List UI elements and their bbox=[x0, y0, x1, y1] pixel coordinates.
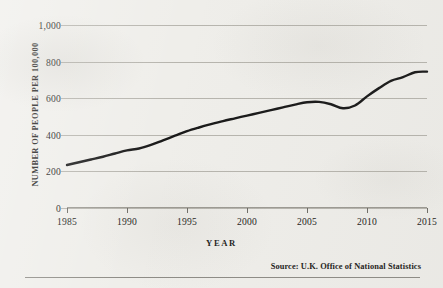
x-axis-title: YEAR bbox=[0, 238, 443, 248]
x-tick-label: 1985 bbox=[57, 216, 77, 227]
y-tick-label: 0 bbox=[56, 203, 61, 214]
x-tick-mark bbox=[127, 208, 128, 213]
y-tick-label: 1,000 bbox=[38, 20, 61, 31]
x-tick-label: 1990 bbox=[117, 216, 137, 227]
x-tick-mark bbox=[247, 208, 248, 213]
x-tick-mark bbox=[307, 208, 308, 213]
series-line-path bbox=[67, 72, 427, 165]
x-tick-label: 2000 bbox=[237, 216, 257, 227]
series-line-chart bbox=[67, 25, 427, 208]
x-tick-label: 2005 bbox=[297, 216, 317, 227]
y-tick-label: 400 bbox=[46, 129, 61, 140]
y-tick-label: 800 bbox=[46, 56, 61, 67]
plot-area: 02004006008001,000 198519901995200020052… bbox=[67, 25, 427, 208]
x-tick-mark bbox=[67, 208, 68, 213]
x-tick-mark bbox=[187, 208, 188, 213]
y-axis-title: NUMBER OF PEOPLE PER 100,000 bbox=[31, 15, 40, 215]
source-note: Source: U.K. Office of National Statisti… bbox=[271, 262, 421, 271]
x-tick-mark bbox=[427, 208, 428, 213]
y-tick-label: 200 bbox=[46, 166, 61, 177]
x-tick-mark bbox=[367, 208, 368, 213]
x-tick-label: 2010 bbox=[357, 216, 377, 227]
x-tick-label: 1995 bbox=[177, 216, 197, 227]
y-tick-label: 600 bbox=[46, 93, 61, 104]
x-tick-label: 2015 bbox=[417, 216, 437, 227]
bottom-divider bbox=[25, 277, 420, 278]
chart-figure: NUMBER OF PEOPLE PER 100,000 02004006008… bbox=[0, 0, 443, 288]
